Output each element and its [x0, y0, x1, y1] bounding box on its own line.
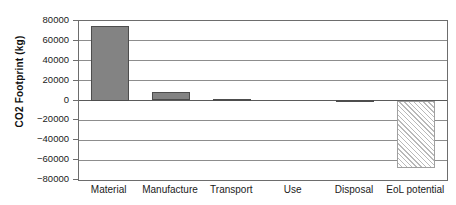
bar-material [91, 26, 129, 101]
plot-area [78, 20, 448, 181]
x-axis-category-labels: MaterialManufactureTransportUseDisposalE… [78, 184, 448, 202]
y-tick-label: 0 [9, 94, 69, 105]
bar-slot [79, 21, 140, 180]
bar-disposal [336, 100, 374, 102]
x-category-label: EoL potential [386, 184, 444, 195]
co2-footprint-bar-chart: CO2 Footprint (kg) 800006000040000200000… [0, 0, 456, 205]
y-tick-label: 20000 [9, 74, 69, 85]
x-category-label: Transport [210, 184, 252, 195]
x-category-label: Material [91, 184, 127, 195]
bar-manufacture [152, 92, 190, 101]
x-category-label: Manufacture [142, 184, 198, 195]
bar-series [79, 21, 447, 180]
bar-transport [213, 99, 251, 101]
bar-slot [386, 21, 447, 180]
y-tick-label: 40000 [9, 54, 69, 65]
x-category-label: Use [284, 184, 302, 195]
bar-slot [324, 21, 385, 180]
y-tick-label: 80000 [9, 14, 69, 25]
y-tick-label: 60000 [9, 34, 69, 45]
x-category-label: Disposal [335, 184, 373, 195]
bar-slot [140, 21, 201, 180]
bar-eol-potential [397, 101, 435, 169]
y-tick-label: −40000 [9, 133, 69, 144]
y-tick-label: −80000 [9, 173, 69, 184]
bar-slot [263, 21, 324, 180]
y-tick-label: −20000 [9, 113, 69, 124]
y-tick-label: −60000 [9, 153, 69, 164]
bar-slot [202, 21, 263, 180]
